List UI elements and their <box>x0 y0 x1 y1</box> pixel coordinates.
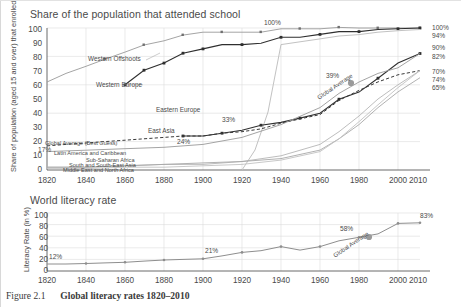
annotation-bottom-58pct: 58% <box>340 225 353 232</box>
figure-number: Figure 2.1 <box>6 290 45 301</box>
end-label-90pct: 90% <box>432 44 445 51</box>
series-world-literacy-rate <box>47 222 421 265</box>
series-label-east-asia: East Asia <box>148 127 175 134</box>
bottom-chart-gridlines <box>47 213 420 271</box>
annotation-top-39pct: 39% <box>326 72 339 79</box>
series-label-western-europe: Western Europe <box>96 81 142 88</box>
series-east-asia-markers <box>182 52 422 137</box>
annotation-bottom-21pct: 21% <box>205 247 218 254</box>
series-label-global-average-best-guess: Global Average (Best Guess) <box>45 140 117 146</box>
end-label-70pct: 70% <box>432 68 445 75</box>
end-label-82pct: 82% <box>432 53 445 60</box>
series-label-middle-east-north-africa: Middle East and North Africa <box>63 167 134 173</box>
top-chart-gridlines <box>47 28 420 170</box>
top-chart-axes <box>47 28 430 170</box>
bottom-chart-plot <box>0 190 461 285</box>
annotation-top-24pct: 24% <box>177 138 190 145</box>
series-world-literacy-rate-markers <box>85 222 422 265</box>
annotation-bottom-12pct: 12% <box>49 253 62 260</box>
bottom-chart: World literacy rate Literacy Rate (in %)… <box>0 190 461 285</box>
annotation-top-100pct: 100% <box>264 19 281 26</box>
bottom-chart-axes <box>47 213 430 271</box>
annotation-top-17pct: 17% <box>38 146 51 153</box>
global-average-dot-top <box>348 80 354 86</box>
end-label-94pct: 94% <box>432 32 445 39</box>
end-label-74pct: 74% <box>432 76 445 83</box>
end-label-100pct: 100% <box>432 24 449 31</box>
figure-page: Share of the population that attended sc… <box>0 0 461 307</box>
figure-caption: Figure 2.1 Global literacy rates 1820–20… <box>6 290 190 301</box>
figure-caption-text: Global literacy rates 1820–2010 <box>60 290 189 301</box>
series-latin-america-caribbean <box>47 54 420 152</box>
series-east-asia <box>182 52 422 137</box>
series-label-eastern-europe: Eastern Europe <box>156 106 200 113</box>
annotation-top-33pct: 33% <box>222 116 235 123</box>
end-label-65pct: 65% <box>432 84 445 91</box>
top-chart: Share of the population that attended sc… <box>0 0 461 190</box>
series-label-western-offshoots: Western Offshoots <box>88 55 141 62</box>
series-label-latin-america-caribbean: Latin America and Caribbean <box>54 150 126 156</box>
annotation-bottom-83pct: 83% <box>420 212 433 219</box>
